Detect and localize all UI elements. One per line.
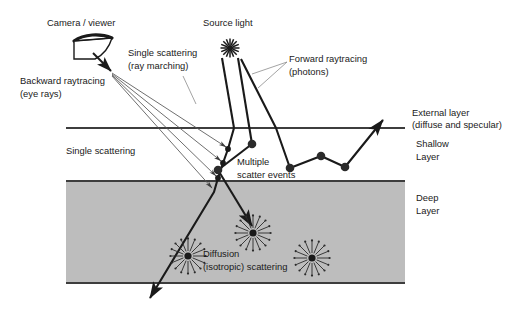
label-multiple-scatter-line2: scatter events — [237, 169, 296, 180]
single-scatter-dots — [215, 146, 231, 181]
label-diffusion-line2: (isotropic) scattering — [203, 261, 287, 272]
label-backward-raytracing-line1: Backward raytracing — [20, 75, 105, 86]
diffusion-starburst-icon — [293, 239, 330, 276]
backward-raytracing-arrow — [93, 53, 111, 71]
label-source-light: Source light — [203, 17, 253, 28]
diagram-canvas: Camera / viewer Source light Single scat… — [0, 0, 522, 315]
label-single-scattering: Single scattering — [66, 145, 135, 156]
subsurface-scattering-diagram: Camera / viewer Source light Single scat… — [0, 0, 522, 315]
label-external-layer-line2: (diffuse and specular) — [412, 119, 502, 130]
source-light-starburst-icon — [221, 39, 240, 58]
label-shallow-layer-line2: Layer — [416, 151, 439, 162]
camera-viewer-icon — [74, 35, 112, 59]
leader-forward-1 — [252, 62, 287, 74]
label-single-scattering-ray-marching-line2: (ray marching) — [128, 60, 188, 71]
label-multiple-scatter-line1: Multiple — [237, 156, 269, 167]
label-forward-raytracing-line1: Forward raytracing — [289, 53, 367, 64]
diffusion-starburst-icon — [234, 214, 271, 251]
label-camera-viewer: Camera / viewer — [47, 17, 115, 28]
leader-forward-2 — [258, 62, 287, 88]
diffusion-starburst-icon — [169, 237, 206, 274]
label-diffusion-line1: Diffusion — [203, 248, 239, 259]
leader-lines — [183, 62, 287, 104]
label-backward-raytracing-line2: (eye rays) — [20, 88, 62, 99]
label-single-scattering-ray-marching-line1: Single scattering — [128, 47, 197, 58]
label-forward-raytracing-line2: (photons) — [289, 66, 329, 77]
label-deep-layer-line1: Deep — [416, 192, 438, 203]
label-external-layer-line1: External layer — [412, 107, 469, 118]
label-shallow-layer-line1: Shallow — [416, 138, 449, 149]
leader-single-scattering — [183, 76, 196, 104]
label-deep-layer-line2: Layer — [416, 205, 439, 216]
eye-ray-fan — [112, 73, 226, 188]
